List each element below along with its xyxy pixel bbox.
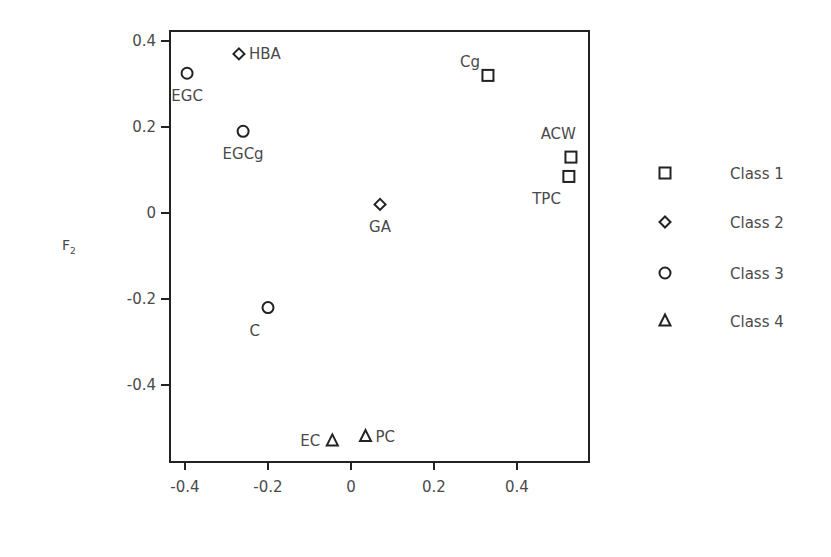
data-points: CgACWTPCHBAGAEGCEGCgCECPC <box>171 45 576 450</box>
square-marker-icon <box>660 168 671 179</box>
point-label: PC <box>376 428 396 446</box>
point-label: C <box>250 322 260 340</box>
y-axis-title: F2 <box>62 237 76 256</box>
x-axis: -0.4-0.200.20.4 <box>170 462 529 496</box>
diamond-marker-icon <box>233 48 244 59</box>
data-point: ACW <box>541 125 577 163</box>
x-tick-label: 0.4 <box>505 478 529 496</box>
data-point: EGC <box>171 68 203 106</box>
point-label: EC <box>300 432 320 450</box>
data-point: C <box>250 302 274 340</box>
x-tick-label: -0.2 <box>253 478 282 496</box>
legend-label: Class 3 <box>730 265 784 283</box>
y-tick-label: -0.4 <box>127 376 156 394</box>
triangle-marker-icon <box>327 434 338 445</box>
triangle-marker-icon <box>660 315 671 326</box>
point-label: GA <box>369 218 392 236</box>
point-label: EGC <box>171 87 203 105</box>
square-marker-icon <box>563 171 574 182</box>
legend-label: Class 4 <box>730 313 784 331</box>
point-label: HBA <box>249 45 282 63</box>
data-point: PC <box>360 428 395 446</box>
x-tick-label: 0 <box>346 478 356 496</box>
square-marker-icon <box>482 70 493 81</box>
point-label: Cg <box>460 53 480 71</box>
y-tick-label: 0.4 <box>132 32 156 50</box>
data-point: TPC <box>531 171 574 209</box>
plot-frame <box>170 31 589 462</box>
circle-marker-icon <box>182 68 193 79</box>
legend-item: Class 3 <box>660 265 784 283</box>
y-tick-label: 0.2 <box>132 118 156 136</box>
legend-item: Class 1 <box>660 165 784 183</box>
scatter-chart: -0.4-0.200.20.4 0.40.20-0.2-0.4 CgACWTPC… <box>0 0 831 557</box>
circle-marker-icon <box>660 268 671 279</box>
data-point: GA <box>369 199 392 237</box>
legend: Class 1Class 2Class 3Class 4 <box>660 165 784 331</box>
point-label: ACW <box>541 125 576 143</box>
y-tick-label: 0 <box>146 204 156 222</box>
y-axis: 0.40.20-0.2-0.4 <box>127 32 170 394</box>
legend-label: Class 2 <box>730 214 784 232</box>
plot-border <box>170 31 589 462</box>
data-point: EC <box>300 432 337 450</box>
data-point: HBA <box>233 45 281 63</box>
y-tick-label: -0.2 <box>127 290 156 308</box>
x-tick-label: 0.2 <box>422 478 446 496</box>
square-marker-icon <box>565 152 576 163</box>
point-label: TPC <box>531 190 561 208</box>
diamond-marker-icon <box>660 217 671 228</box>
circle-marker-icon <box>263 302 274 313</box>
point-label: EGCg <box>223 145 264 163</box>
diamond-marker-icon <box>375 199 386 210</box>
data-point: EGCg <box>223 126 264 164</box>
data-point: Cg <box>460 53 494 81</box>
x-tick-label: -0.4 <box>170 478 199 496</box>
legend-label: Class 1 <box>730 165 784 183</box>
legend-item: Class 4 <box>660 313 784 331</box>
triangle-marker-icon <box>360 430 371 441</box>
legend-item: Class 2 <box>660 214 784 232</box>
circle-marker-icon <box>238 126 249 137</box>
